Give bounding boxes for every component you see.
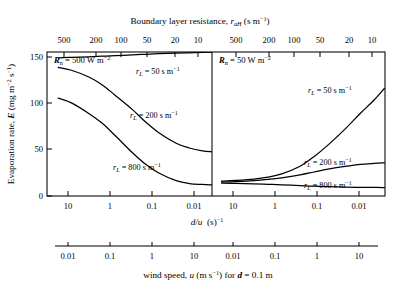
y-axis-title-sup1: −2 xyxy=(5,79,12,86)
x-axis-secondary-units: (m s xyxy=(194,270,213,280)
label-val: = 800 s m xyxy=(311,181,346,190)
top-tick-label: 10 xyxy=(368,35,377,45)
bottom-tick-label: 10 xyxy=(64,201,73,211)
top-tick-label: 500 xyxy=(230,35,243,45)
curve-left-rL200 xyxy=(58,67,212,151)
top-axis-title-units: (s m xyxy=(242,16,260,26)
y-tick-label: 100 xyxy=(30,98,43,108)
panel-right-value-sup: −2 xyxy=(264,54,271,61)
bottom-tick-label: 0.1 xyxy=(312,201,323,211)
curve-label-left-rL50: rL = 50 s m−1 xyxy=(136,65,180,77)
wind-axis-tick-marks xyxy=(68,242,359,246)
wind-tick-label: 1 xyxy=(315,251,319,261)
top-axis-ticklabels-right: 500 200 100 50 20 10 xyxy=(230,35,377,45)
y-axis-title: Evaporation rate, E (mg m−2 s−1) xyxy=(5,64,16,184)
label-val: = 200 s m xyxy=(137,111,172,120)
wind-tick-label: 0.01 xyxy=(60,251,75,261)
top-tick-label: 10 xyxy=(194,35,203,45)
bottom-tick-label: 1 xyxy=(108,201,112,211)
panel-left-value-sup: −2 xyxy=(104,54,111,61)
wind-tick-label: 0.1 xyxy=(270,251,281,261)
panel-right-value: = 50 W m xyxy=(228,55,265,65)
y-tick-label: 50 xyxy=(34,144,43,154)
top-tick-label: 50 xyxy=(316,35,325,45)
y-axis-title-symbol: E xyxy=(6,112,16,119)
y-axis-title-main: Evaporation rate, xyxy=(6,119,16,185)
top-axis-title-main: Boundary layer resistance, xyxy=(130,16,230,26)
panel-right-label: Rn = 50 W m−2 xyxy=(218,54,271,66)
label-sup: −1 xyxy=(345,84,352,91)
x-axis-primary-units: (s) xyxy=(202,217,216,227)
figure-container: Boundary layer resistance, raH (s m−1) 5… xyxy=(0,0,400,289)
wind-tick-label: 0.01 xyxy=(225,251,240,261)
curve-label-right-rL50: rL = 50 s m−1 xyxy=(308,84,352,96)
x-axis-secondary-mid: ) for xyxy=(219,270,237,280)
bottom-tick-label: 1 xyxy=(273,201,277,211)
x-axis-secondary-main: wind speed, xyxy=(143,270,189,280)
curve-right-rL50 xyxy=(222,88,385,181)
top-axis-ticklabels-left: 500 200 100 50 20 10 xyxy=(58,35,203,45)
bottom-tick-marks xyxy=(68,191,359,196)
label-val: = 200 s m xyxy=(311,158,346,167)
panel-right: Rn = 50 W m−2 rL = 50 s m−1 rL = 200 s m… xyxy=(218,54,384,191)
bottom-axis-ticklabels: 10 1 0.1 0.01 10 1 0.1 0.01 xyxy=(64,201,367,211)
label-sup: −1 xyxy=(345,156,352,163)
wind-axis-ticklabels: 0.01 0.1 1 10 0.01 0.1 1 10 xyxy=(60,251,363,261)
curve-label-right-rL200: rL = 200 s m−1 xyxy=(304,156,352,168)
x-axis-title-primary: d/u (s)−1 xyxy=(191,216,224,227)
y-tick-marks xyxy=(47,57,52,196)
bottom-tick-label: 10 xyxy=(229,201,238,211)
top-tick-label: 20 xyxy=(171,35,180,45)
wind-tick-label: 1 xyxy=(150,251,154,261)
curve-label-right-rL800: rL = 800 s m−1 xyxy=(304,179,352,191)
y-axis-title-sup2: −1 xyxy=(5,67,12,74)
bottom-tick-label: 0.01 xyxy=(351,201,366,211)
top-tick-label: 100 xyxy=(288,35,301,45)
label-val: = 50 s m xyxy=(315,86,346,95)
top-tick-label: 50 xyxy=(143,35,152,45)
top-axis-title-units-sup: −1 xyxy=(260,15,267,22)
label-sup: −1 xyxy=(171,109,178,116)
y-axis-ticklabels: 150 100 50 0 xyxy=(30,52,43,201)
label-val: = 50 s m xyxy=(143,67,174,76)
bottom-tick-label: 0.01 xyxy=(186,201,201,211)
top-tick-label: 200 xyxy=(90,35,103,45)
evaporation-rate-chart: Boundary layer resistance, raH (s m−1) 5… xyxy=(0,0,400,289)
plot-frame xyxy=(47,52,385,196)
wind-tick-label: 10 xyxy=(355,251,364,261)
top-tick-label: 200 xyxy=(263,35,276,45)
y-axis-title-units-end: ) xyxy=(6,64,16,67)
curve-right-rL800 xyxy=(222,183,385,188)
curve-label-left-rL800: rL = 800 s m−1 xyxy=(113,161,161,173)
x-axis-primary-units-sup: −1 xyxy=(217,216,224,223)
bottom-tick-label: 0.1 xyxy=(147,201,158,211)
y-tick-label: 0 xyxy=(39,191,43,201)
panel-left: Rn = 500 W m−2 rL = 50 s m−1 rL = 200 s … xyxy=(53,52,212,185)
curve-label-left-rL200: rL = 200 s m−1 xyxy=(130,109,178,121)
top-tick-label: 100 xyxy=(115,35,128,45)
top-tick-label: 500 xyxy=(58,35,71,45)
label-val: = 800 s m xyxy=(120,163,155,172)
x-axis-secondary-end: = 0.1 m xyxy=(242,270,273,280)
label-sup: −1 xyxy=(154,161,161,168)
wind-tick-label: 10 xyxy=(190,251,199,261)
label-sup: −1 xyxy=(173,65,180,72)
top-axis-title: Boundary layer resistance, raH (s m−1) xyxy=(130,15,269,27)
x-axis-title-secondary: wind speed, u (m s−1) for d = 0.1 m xyxy=(143,269,272,280)
top-tick-label: 20 xyxy=(345,35,354,45)
y-tick-label: 150 xyxy=(30,52,43,62)
y-axis-title-units: (mg m xyxy=(6,86,16,113)
wind-tick-label: 0.1 xyxy=(105,251,116,261)
label-sup: −1 xyxy=(345,179,352,186)
top-axis-title-units-end: ) xyxy=(267,16,270,26)
